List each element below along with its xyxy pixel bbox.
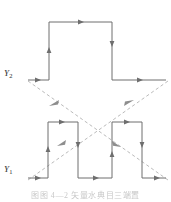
signal-label-y1-subscript: 1 — [9, 168, 12, 175]
signal-label-y2-subscript: 2 — [9, 72, 12, 79]
waveform-figure: Y2 Y1 图图 4—2 矢量水典目三端置 — [0, 0, 171, 202]
signal-label-y1: Y1 — [4, 165, 12, 174]
signal-y1-group — [28, 120, 166, 181]
arrowhead-y1-fall1-down — [76, 142, 81, 148]
arrowhead-y1-top1-right — [59, 120, 65, 125]
dashed-arrowhead-lower-right — [112, 141, 121, 147]
arrowhead-y1-top2-right — [124, 120, 130, 125]
arrowhead-y1-tail-right — [154, 176, 160, 181]
arrowhead-y2-rise-up — [47, 47, 52, 53]
arrowhead-y1-fall2-down — [140, 142, 145, 148]
dashed-arrowhead-upper-right — [124, 100, 134, 106]
signal-label-y2: Y2 — [4, 69, 12, 78]
arrowhead-y1-lead-right — [35, 176, 41, 181]
arrowhead-y2-lead-right — [35, 78, 41, 83]
dashed-arrowhead-upper-left — [49, 100, 59, 106]
arrowhead-y2-fall-down — [110, 41, 115, 47]
dashed-arrowhead-lower-left — [57, 140, 66, 146]
signal-y2-group — [28, 20, 166, 83]
arrowhead-y2-top-right — [78, 20, 84, 25]
waveform-canvas — [0, 0, 171, 202]
arrowhead-y1-rise1-up — [46, 146, 51, 152]
arrowhead-y2-tail-right — [137, 78, 143, 83]
arrowhead-y1-mid-right — [93, 176, 99, 181]
dashed-guides-group — [28, 81, 168, 180]
figure-caption: 图图 4—2 矢量水典目三端置 — [0, 189, 171, 200]
arrowhead-y1-rise2-up — [110, 151, 115, 157]
